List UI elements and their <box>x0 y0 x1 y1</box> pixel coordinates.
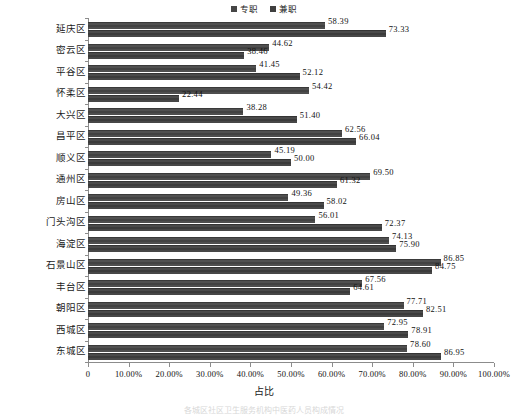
category-label: 平谷区 <box>4 66 86 77</box>
bar-value-label: 72.37 <box>385 219 406 228</box>
category-label: 延庆区 <box>4 23 86 34</box>
bar[interactable] <box>88 259 441 266</box>
category-label: 房山区 <box>4 195 86 206</box>
bar-group: 77.7182.51 <box>88 298 494 320</box>
bar[interactable] <box>88 237 389 244</box>
bar[interactable] <box>88 181 337 188</box>
category-label: 丰台区 <box>4 281 86 292</box>
bar[interactable] <box>88 245 396 252</box>
bar[interactable] <box>88 22 325 29</box>
bar-value-label: 52.12 <box>303 68 324 77</box>
legend-swatch-icon <box>270 6 276 12</box>
bar-value-label: 72.95 <box>387 318 408 327</box>
bar-group: 78.6086.95 <box>88 341 494 363</box>
legend-label: 兼职 <box>279 5 297 14</box>
bar-value-label: 44.62 <box>272 39 293 48</box>
bar-value-label: 56.01 <box>318 211 339 220</box>
bar[interactable] <box>88 138 356 145</box>
bar[interactable] <box>88 65 256 72</box>
bar-value-label: 54.42 <box>312 82 333 91</box>
bar[interactable] <box>88 130 342 137</box>
x-axis-tick-label: 70.00% <box>358 369 385 379</box>
category-label: 东城区 <box>4 345 86 356</box>
bar-group: 45.1950.00 <box>88 147 494 169</box>
bar-value-label: 49.36 <box>291 189 312 198</box>
x-axis-tick <box>413 363 414 367</box>
bar-group: 38.2851.40 <box>88 104 494 126</box>
bar[interactable] <box>88 310 423 317</box>
x-axis-tick <box>372 363 373 367</box>
bar-value-label: 61.32 <box>340 176 361 185</box>
bar[interactable] <box>88 73 300 80</box>
bar[interactable] <box>88 151 271 158</box>
bar-group: 56.0172.37 <box>88 212 494 234</box>
bar[interactable] <box>88 159 291 166</box>
bar-value-label: 86.95 <box>444 348 465 357</box>
category-label: 海淀区 <box>4 238 86 249</box>
bar-group: 69.5061.32 <box>88 169 494 191</box>
legend-entry[interactable]: 专职 <box>231 5 258 14</box>
bar[interactable] <box>88 302 404 309</box>
bar-value-label: 64.61 <box>353 283 374 292</box>
bar-value-label: 22.44 <box>182 90 203 99</box>
bar[interactable] <box>88 173 370 180</box>
category-label: 石景山区 <box>4 259 86 270</box>
bar-value-label: 66.04 <box>359 133 380 142</box>
bar-value-label: 58.39 <box>328 17 349 26</box>
bar[interactable] <box>88 331 408 338</box>
bar[interactable] <box>88 216 315 223</box>
category-label: 西城区 <box>4 324 86 335</box>
category-label: 门头沟区 <box>4 216 86 227</box>
x-axis-tick <box>494 363 495 367</box>
bar[interactable] <box>88 30 386 37</box>
category-label: 密云区 <box>4 44 86 55</box>
figure-caption: 各城区社区卫生服务机构中医药人员构成情况 <box>0 406 528 416</box>
bar[interactable] <box>88 108 243 115</box>
bar[interactable] <box>88 345 407 352</box>
x-axis-tick <box>250 363 251 367</box>
bar[interactable] <box>88 95 179 102</box>
category-label: 顺义区 <box>4 152 86 163</box>
bar[interactable] <box>88 116 297 123</box>
bar-group: 86.8584.75 <box>88 255 494 277</box>
x-axis-tick-label: 10.00% <box>115 369 142 379</box>
bar-value-label: 50.00 <box>294 154 315 163</box>
x-axis-tick <box>88 363 89 367</box>
x-axis-tick-label: 40.00% <box>237 369 264 379</box>
bar[interactable] <box>88 194 288 201</box>
plot-area: 010.00%20.00%30.00%40.00%50.00%60.00%70.… <box>88 18 494 362</box>
bar[interactable] <box>88 202 324 209</box>
bar[interactable] <box>88 52 244 59</box>
category-label: 大兴区 <box>4 109 86 120</box>
bar-group: 72.9578.91 <box>88 319 494 341</box>
bar[interactable] <box>88 224 382 231</box>
y-axis-tick <box>85 362 88 363</box>
x-axis-title: 占比 <box>0 386 528 398</box>
bar[interactable] <box>88 288 350 295</box>
bar[interactable] <box>88 280 362 287</box>
bar-value-label: 77.71 <box>407 297 428 306</box>
x-axis-tick <box>210 363 211 367</box>
bar-group: 41.4552.12 <box>88 61 494 83</box>
legend-entry[interactable]: 兼职 <box>270 5 297 14</box>
bar-chart: 专职兼职 延庆区密云区平谷区怀柔区大兴区昌平区顺义区通州区房山区门头沟区海淀区石… <box>0 0 528 416</box>
x-axis-tick-label: 60.00% <box>318 369 345 379</box>
category-label: 怀柔区 <box>4 87 86 98</box>
bar-value-label: 75.90 <box>399 240 420 249</box>
x-axis-tick-label: 90.00% <box>440 369 467 379</box>
bar-group: 54.4222.44 <box>88 83 494 105</box>
x-axis-tick <box>332 363 333 367</box>
bar-value-label: 84.75 <box>435 262 456 271</box>
bar-group: 49.3658.02 <box>88 190 494 212</box>
x-axis-tick-label: 30.00% <box>196 369 223 379</box>
legend-swatch-icon <box>231 6 237 12</box>
category-label: 通州区 <box>4 173 86 184</box>
bar-value-label: 73.33 <box>389 25 410 34</box>
x-axis-tick <box>291 363 292 367</box>
bar-value-label: 78.91 <box>411 326 432 335</box>
bar[interactable] <box>88 267 432 274</box>
bar[interactable] <box>88 323 384 330</box>
bar[interactable] <box>88 353 441 360</box>
x-axis-tick-label: 80.00% <box>399 369 426 379</box>
bar[interactable] <box>88 44 269 51</box>
